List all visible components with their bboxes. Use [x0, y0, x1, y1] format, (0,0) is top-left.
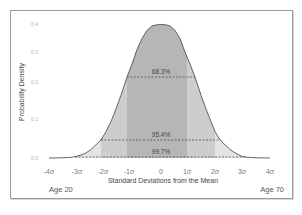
y-tick-0-1: 0.1 [31, 116, 38, 122]
x-tick-0: 0 [159, 168, 163, 175]
y-tick-0-3: 0.3 [31, 49, 38, 55]
x-tick-2: 2σ [211, 168, 220, 175]
shaded-bands [75, 20, 242, 160]
x-tick-4: 4σ [266, 168, 275, 175]
x-axis-label: Standard Deviations from the Mean [108, 177, 218, 184]
x-tick-m2: -2σ [98, 168, 109, 175]
normal-distribution-chart: 68.3% 95.4% 99.7% 0.4 0.3 0.2 0.1 0.0 Pr… [0, 0, 302, 215]
x-tick-m3: -3σ [72, 168, 83, 175]
x-tick-m1: -1σ [124, 168, 135, 175]
y-axis-label: Probability Density [18, 63, 26, 121]
label-68-3: 68.3% [152, 68, 171, 75]
y-tick-0-0: 0.0 [31, 155, 38, 161]
x-tick-1: 1σ [183, 168, 192, 175]
age-right-annotation: Age 70 [260, 185, 284, 194]
label-95-4: 95.4% [152, 131, 171, 138]
age-left-annotation: Age 20 [49, 185, 73, 194]
label-99-7: 99.7% [152, 148, 171, 155]
band-68-3 [127, 20, 187, 160]
y-tick-0-2: 0.2 [31, 79, 38, 85]
x-tick-m4: -4σ [44, 168, 55, 175]
x-tick-3: 3σ [238, 168, 247, 175]
y-tick-0-4: 0.4 [31, 21, 38, 27]
